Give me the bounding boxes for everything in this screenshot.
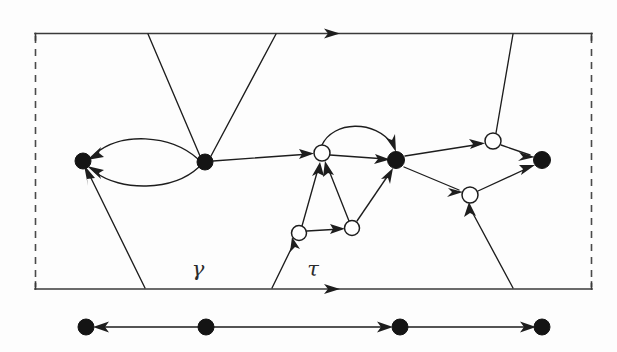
edge-b3-to-w3-arrowhead	[447, 188, 463, 197]
node-w3[interactable]	[462, 187, 478, 203]
node-b3[interactable]	[388, 152, 405, 169]
edge-w5-to-b3-arrowhead	[381, 168, 393, 184]
label-gamma: γ	[192, 257, 205, 281]
edge-w5-to-b3	[357, 168, 393, 221]
edge-w2-to-b4-line	[501, 145, 530, 155]
boundary-node-c2[interactable]	[198, 319, 214, 335]
edge-w4-to-w1	[302, 162, 324, 226]
edge-w2-to-b4	[501, 145, 535, 161]
edge-w1-to-b3-straight	[330, 154, 390, 164]
node-b2[interactable]	[197, 154, 213, 170]
edge-b3-to-w2-arrowhead	[469, 139, 485, 149]
boundary-node-c4[interactable]	[534, 319, 550, 335]
edge-bottom-to-b1	[88, 172, 145, 288]
label-tau: τ	[307, 257, 319, 281]
node-w1[interactable]	[314, 145, 330, 161]
edge-w5-to-b3-line	[357, 174, 389, 221]
edge-w1-to-b3-arc-arrowhead	[386, 134, 396, 152]
edge-w4-to-w5	[307, 224, 345, 234]
edge-b3-to-w2-line	[405, 144, 481, 156]
boundary-node-c1[interactable]	[78, 319, 94, 335]
edge-bottom-to-w3-arrowhead	[464, 202, 476, 217]
edge-b3-to-w2	[405, 139, 485, 156]
edge-w3-to-b4-line	[478, 167, 530, 191]
boundary-circle-line	[78, 319, 550, 335]
cylinder-boundary	[35, 29, 592, 295]
edge-top-left-to-b2	[148, 34, 200, 156]
edge-b2-to-b1-lower	[95, 167, 199, 186]
edge-w4-to-w1-arrowhead	[312, 162, 324, 176]
boundary-incident-edges	[84, 34, 513, 288]
edge-w1-to-b3-arc-line	[322, 126, 393, 145]
edge-w3-to-b4	[478, 165, 535, 191]
node-w2[interactable]	[485, 133, 501, 149]
boundary-node-c3[interactable]	[392, 319, 408, 335]
edge-pair-b2-b1	[87, 139, 199, 186]
edge-b2-to-w1	[213, 149, 314, 161]
edge-b2-to-w1-line	[213, 154, 310, 161]
edge-top-to-w2	[496, 34, 513, 133]
node-w5[interactable]	[345, 221, 360, 236]
edge-b3-to-w3	[404, 167, 463, 197]
figure-diagram: γ τ	[0, 0, 617, 352]
figure-root: γ τ	[0, 0, 617, 352]
edge-w5-to-w1-line	[328, 168, 349, 221]
node-w4[interactable]	[292, 226, 307, 241]
edge-b3-to-w3-line	[404, 167, 459, 190]
edge-b2-to-b1-upper	[95, 139, 198, 159]
edge-w3-to-b4-arrowhead	[519, 165, 535, 175]
node-b1[interactable]	[75, 153, 91, 169]
edge-w5-to-w1-arrowhead	[323, 161, 334, 177]
edge-w5-to-w1	[323, 161, 349, 221]
edge-w1-to-b3-arc	[322, 126, 396, 152]
node-b4[interactable]	[534, 152, 551, 169]
edge-top-right-to-b2	[211, 34, 276, 156]
edge-bottom-to-w3	[470, 208, 513, 288]
edge-w4-to-w1-line	[302, 169, 318, 226]
